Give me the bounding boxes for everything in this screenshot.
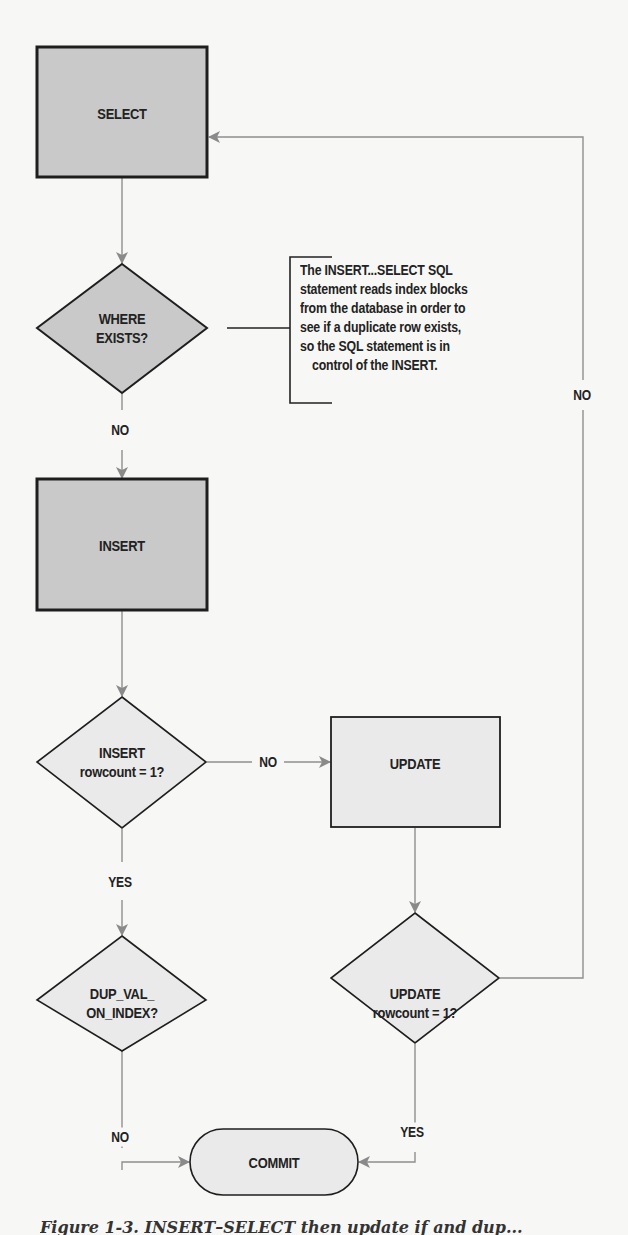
node-select-label: SELECT [97,104,146,123]
edge-label-where-no: NO [110,421,131,440]
where-exists-line2: EXISTS? [96,328,148,347]
dup-val-line1: DUP_VAL_ [86,984,158,1003]
annotation-line: The INSERT...SELECT SQL [300,261,450,280]
edge-label-dup-no: NO [110,1128,131,1147]
node-update-rowcount-label: UPDATE rowcount = 1? [373,984,457,1022]
figure-caption: Figure 1-3. INSERT–SELECT then update if… [40,1218,620,1235]
node-insert-rowcount-label: INSERT rowcount = 1? [80,743,164,781]
annotation-line: statement reads index blocks [300,280,450,299]
node-update-label: UPDATE [390,754,441,773]
node-commit-label: COMMIT [249,1153,300,1172]
edge-dup-to-commit [122,1162,189,1170]
node-update-rowcount-shape [331,913,499,1043]
edge-update-rowcount-to-commit [359,1152,415,1162]
update-rowcount-line2: rowcount = 1? [373,1003,457,1022]
dup-val-line2: ON_INDEX? [86,1003,158,1022]
node-insert-label: INSERT [99,536,145,555]
annotation-line: control of the INSERT. [300,356,450,375]
edge-label-update-rowcount-no: NO [572,386,593,405]
annotation-note: The INSERT...SELECT SQL statement reads … [300,261,450,375]
update-rowcount-line1: UPDATE [373,984,457,1003]
node-where-exists-label: WHERE EXISTS? [96,309,148,347]
annotation-line: see if a duplicate row exists, [300,318,450,337]
insert-rowcount-line2: rowcount = 1? [80,762,164,781]
where-exists-line1: WHERE [96,309,148,328]
edge-label-insert-rowcount-yes: YES [107,873,134,892]
annotation-line: from the database in order to [300,299,450,318]
node-dup-val-label: DUP_VAL_ ON_INDEX? [86,984,158,1022]
edge-label-update-rowcount-yes: YES [399,1123,426,1142]
annotation-line: so the SQL statement is in [300,337,450,356]
insert-rowcount-line1: INSERT [80,743,164,762]
edge-label-insert-rowcount-no: NO [258,753,279,772]
flowchart-canvas [0,0,628,1235]
